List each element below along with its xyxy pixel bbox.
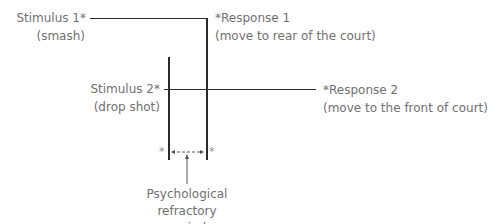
stimulus-2-marker: * — [159, 145, 165, 158]
response-1-marker: * — [209, 145, 215, 158]
prp-interval-arrows — [0, 0, 498, 224]
prp-label-line-3: period — [137, 221, 237, 224]
prp-label-line-1: Psychological — [137, 187, 237, 202]
prp-label-line-2: refractory — [137, 204, 237, 219]
